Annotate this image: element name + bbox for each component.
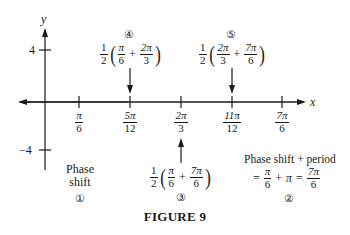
x-tick-label-7pi-6: 7π6 xyxy=(272,110,292,134)
step5-expression: 12 ( 2π3 + 7π6 ) xyxy=(199,41,266,66)
step4-expression: 12 ( π6 + 2π3 ) xyxy=(100,41,162,66)
x-tick-label-5pi-12: 5π12 xyxy=(119,110,141,134)
arrow-down-icon xyxy=(127,85,133,94)
x-tick-label-pi-6: π6 xyxy=(71,110,87,134)
arrow-down-icon xyxy=(229,85,235,94)
step3-marker: ③ xyxy=(176,192,186,203)
x-tick-label-11pi-12: 11π12 xyxy=(220,110,244,134)
step1-label: Phase shift ① xyxy=(62,163,98,205)
y-tick-label-4: 4 xyxy=(29,44,35,56)
step3-expression: 12 ( π6 + 7π6 ) xyxy=(150,164,212,189)
step1-marker: ① xyxy=(62,192,98,205)
x-axis-label: x xyxy=(310,96,315,108)
figure-caption: FIGURE 9 xyxy=(0,209,350,225)
step2-marker: ② xyxy=(284,193,294,204)
arrow-up-icon xyxy=(178,138,184,147)
step5-marker: ⑤ xyxy=(226,29,236,40)
step2-title: Phase shift + period xyxy=(240,154,340,166)
y-tick-label-neg4: −4 xyxy=(19,144,32,156)
x-tick-label-2pi-3: 2π3 xyxy=(171,110,191,134)
step4-marker: ④ xyxy=(124,29,134,40)
step2-expression: = π6 + π = 7π6 xyxy=(250,166,320,190)
y-axis-arrow-icon xyxy=(42,28,48,37)
x-axis-right-arrow-icon xyxy=(297,99,306,105)
y-axis-label: y xyxy=(41,13,46,25)
